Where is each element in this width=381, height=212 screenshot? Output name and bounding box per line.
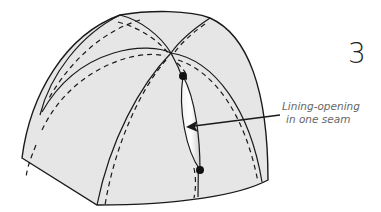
opening-top-dot: [179, 72, 187, 80]
step-number: 3: [348, 40, 366, 68]
dome-body: [22, 12, 268, 205]
opening-bottom-dot: [196, 166, 204, 174]
annotation-line-1: Lining-opening: [282, 100, 360, 113]
annotation-label: Lining-opening in one seam: [282, 100, 360, 126]
annotation-line-2: in one seam: [282, 113, 360, 126]
